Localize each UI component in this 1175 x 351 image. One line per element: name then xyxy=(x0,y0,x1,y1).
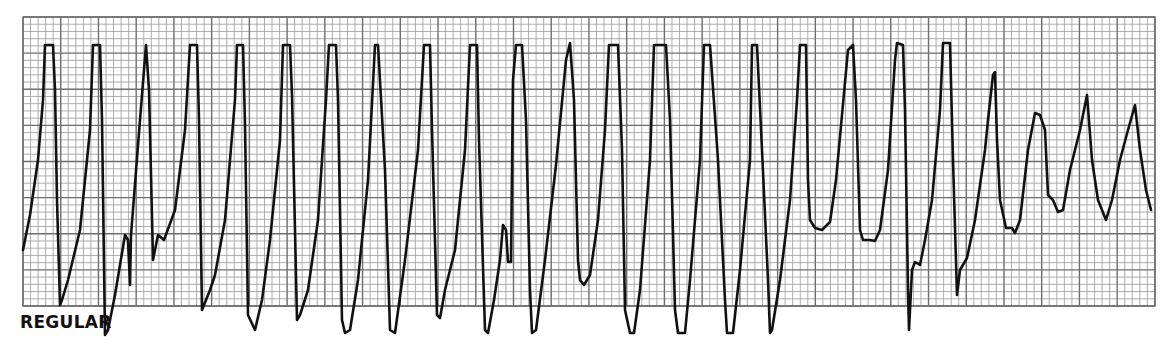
ecg-strip xyxy=(0,0,1175,351)
rhythm-label: REGULAR xyxy=(20,312,112,332)
